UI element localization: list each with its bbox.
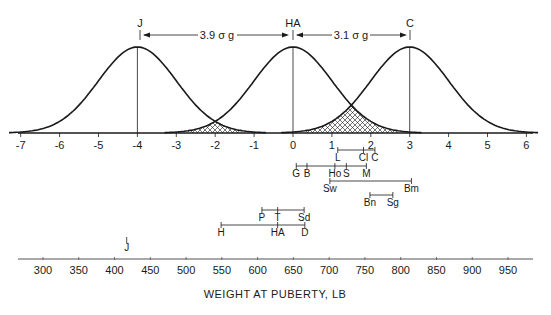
weight-tick-label: 550 (213, 264, 231, 276)
breed-label-j: J (124, 242, 129, 253)
weight-tick-label: 500 (177, 264, 195, 276)
overlap-j-ha (188, 122, 242, 133)
breed-label-c: C (371, 152, 378, 163)
breed-label-sw: Sw (323, 183, 338, 194)
breed-label-cl: Cl (359, 152, 368, 163)
weight-tick-label: 800 (392, 264, 410, 276)
breed-row-7: J (124, 237, 129, 253)
weight-tick-label: 650 (284, 264, 302, 276)
breed-label-sg: Sg (387, 197, 399, 208)
sigma-tick-label: -6 (55, 139, 65, 151)
breed-row-5: PTSd (259, 207, 311, 223)
breed-label-s: S (343, 168, 350, 179)
breed-label-bn: Bn (364, 197, 376, 208)
distance-label-3-9: 3.9 σ g (200, 29, 234, 41)
breed-label-d: D (301, 227, 308, 238)
weight-tick-label: 750 (356, 264, 374, 276)
breed-label-bm: Bm (404, 183, 419, 194)
sigma-tick-label: -5 (94, 139, 104, 151)
sigma-tick-label: -3 (171, 139, 181, 151)
breed-label-m: M (362, 168, 370, 179)
distance-arrow-ha-c: 3.1 σ g (293, 29, 410, 41)
breed-label-h: H (218, 227, 225, 238)
weight-tick-label: 900 (463, 264, 481, 276)
peak-label-j: J (137, 17, 143, 29)
weight-tick-label: 350 (70, 264, 88, 276)
peak-label-ha: HA (285, 17, 301, 29)
sigma-tick-label: 2 (368, 139, 374, 151)
breed-label-b: B (304, 168, 311, 179)
breed-label-ha: HA (271, 227, 285, 238)
weight-tick-label: 700 (320, 264, 338, 276)
sigma-axis-ticks: -7-6-5-4-3-2-10123456 (16, 133, 530, 151)
sigma-tick-label: -7 (16, 139, 26, 151)
distance-arrow-j-ha: 3.9 σ g (140, 29, 289, 41)
overlap-ha-c (305, 105, 398, 133)
weight-tick-label: 300 (34, 264, 52, 276)
breed-label-t: T (275, 212, 281, 223)
breed-label-sd: Sd (298, 212, 310, 223)
breed-row-4: BnSg (364, 192, 399, 208)
breed-label-l: L (335, 152, 341, 163)
sigma-tick-label: -4 (133, 139, 143, 151)
weight-tick-label: 850 (427, 264, 445, 276)
sigma-tick-label: 0 (290, 139, 296, 151)
breed-label-ho: Ho (328, 168, 341, 179)
weight-tick-label: 400 (105, 264, 123, 276)
sigma-tick-label: 4 (446, 139, 452, 151)
breed-ranges: LClCGBHoSMSwBmBnSgPTSdHHADJ (124, 147, 419, 253)
chart-canvas: -7-6-5-4-3-2-10123456 J HA C 3.9 σ g 3.1… (0, 0, 551, 315)
breed-row-3: SwBm (323, 178, 419, 194)
sigma-tick-label: 3 (407, 139, 413, 151)
breed-row-6: HHAD (218, 222, 309, 238)
sigma-tick-label: 6 (523, 139, 529, 151)
distribution-curves (9, 47, 538, 133)
sigma-tick-label: 5 (484, 139, 490, 151)
weight-tick-label: 450 (141, 264, 159, 276)
distance-label-3-1: 3.1 σ g (334, 29, 368, 41)
sigma-tick-label: -1 (249, 139, 259, 151)
sigma-tick-label: 1 (329, 139, 335, 151)
peak-label-c: C (406, 17, 414, 29)
weight-tick-label: 950 (499, 264, 517, 276)
x-axis-title: WEIGHT AT PUBERTY, LB (204, 288, 347, 300)
breed-label-g: G (292, 168, 300, 179)
sigma-tick-label: -2 (210, 139, 220, 151)
breed-row-2: GBHoSM (292, 163, 370, 179)
breed-label-p: P (259, 212, 266, 223)
weight-axis-ticks: 3003504004505005506006507007508008509009… (34, 257, 517, 276)
weight-tick-label: 600 (248, 264, 266, 276)
